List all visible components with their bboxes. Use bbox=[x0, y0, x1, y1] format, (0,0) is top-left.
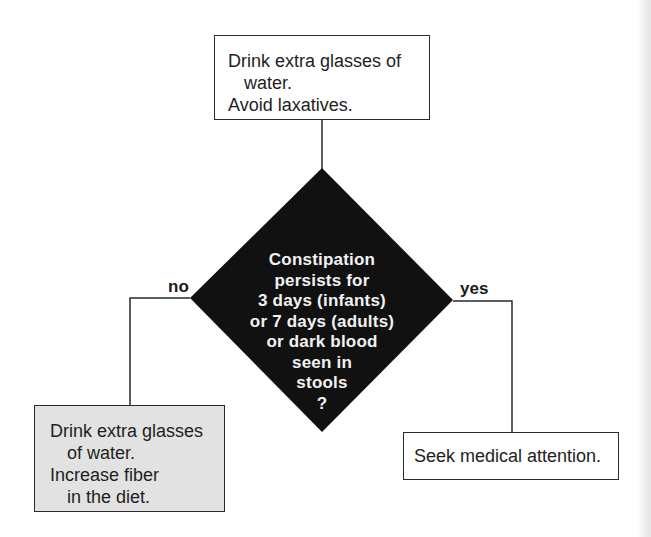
box-text-line: Avoid laxatives. bbox=[228, 94, 429, 116]
decision-text-line: or dark blood bbox=[222, 332, 422, 353]
decision-text-line: seen in bbox=[222, 353, 422, 374]
decision-text-line: 3 days (infants) bbox=[222, 291, 422, 312]
box-text-line: Increase fiber bbox=[50, 464, 224, 486]
box-text-line: Drink extra glasses bbox=[50, 420, 224, 442]
box-text-line: water. bbox=[228, 72, 429, 94]
decision-text-line: stools bbox=[222, 373, 422, 394]
decision-question: Constipation persists for 3 days (infant… bbox=[222, 250, 422, 414]
box-text-line: Drink extra glasses of bbox=[228, 50, 429, 72]
advice-box-initial: Drink extra glasses of water. Avoid laxa… bbox=[214, 35, 430, 120]
connector-yes-branch bbox=[453, 301, 512, 432]
box-text-line: of water. bbox=[50, 442, 224, 464]
decision-text-line: Constipation bbox=[222, 250, 422, 271]
box-text-line: in the diet. bbox=[50, 486, 224, 508]
branch-label-no: no bbox=[168, 277, 189, 297]
decision-text-line: or 7 days (adults) bbox=[222, 312, 422, 333]
box-text-line: Seek medical attention. bbox=[414, 445, 618, 467]
advice-box-no: Drink extra glasses of water. Increase f… bbox=[34, 405, 225, 512]
decision-text-line: persists for bbox=[222, 271, 422, 292]
branch-label-yes: yes bbox=[460, 279, 488, 299]
advice-box-yes: Seek medical attention. bbox=[403, 432, 619, 480]
decision-text-line: ? bbox=[222, 394, 422, 415]
connector-no-branch bbox=[130, 298, 190, 405]
